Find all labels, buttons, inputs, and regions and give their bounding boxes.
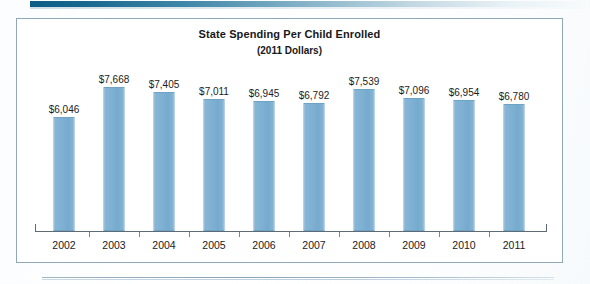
bar-group-2004: $7,405 [139, 63, 189, 231]
x-axis-line [35, 231, 546, 232]
bar-group-2008: $7,539 [339, 63, 389, 231]
bar-value-label: $6,792 [299, 90, 330, 101]
bar-value-label: $7,011 [199, 86, 229, 97]
x-axis-tick [189, 232, 190, 237]
bar-group-2009: $7,096 [389, 63, 439, 231]
page-divider-rule-shadow [42, 279, 554, 280]
bar-value-label: $7,539 [349, 76, 380, 87]
bar-value-label: $6,780 [499, 91, 530, 102]
chart-frame: State Spending Per Child Enrolled (2011 … [16, 18, 563, 263]
x-axis-label-2008: 2008 [339, 239, 389, 251]
bar [454, 100, 475, 231]
bar-group-2006: $6,945 [239, 63, 289, 231]
x-axis-tick [89, 232, 90, 237]
x-axis-right-endcap [546, 224, 547, 232]
bar [154, 92, 175, 231]
bar-value-label: $7,668 [99, 74, 130, 85]
bar-group-2007: $6,792 [289, 63, 339, 231]
bar [204, 99, 225, 231]
x-axis-tick [139, 232, 140, 237]
bar [304, 103, 325, 231]
chart-title: State Spending Per Child Enrolled [17, 27, 562, 42]
x-axis-tick [439, 232, 440, 237]
x-axis-left-endcap [35, 224, 36, 232]
chart-subtitle: (2011 Dollars) [17, 43, 562, 58]
bar-value-label: $6,046 [49, 104, 80, 115]
x-axis-label-2011: 2011 [489, 239, 539, 251]
x-axis-label-2004: 2004 [139, 239, 189, 251]
x-axis-label-2003: 2003 [89, 239, 139, 251]
bar [404, 98, 425, 231]
bar [354, 89, 375, 231]
x-axis-label-2009: 2009 [389, 239, 439, 251]
page-divider-rule [42, 277, 554, 278]
x-axis-labels: 2002200320042005200620072008200920102011 [37, 239, 544, 257]
x-axis-label-2005: 2005 [189, 239, 239, 251]
x-axis-label-2007: 2007 [289, 239, 339, 251]
chart-title-block: State Spending Per Child Enrolled (2011 … [17, 27, 562, 58]
bar [104, 87, 125, 231]
bar-value-label: $7,096 [399, 85, 430, 96]
bar-group-2005: $7,011 [189, 63, 239, 231]
x-axis-label-2010: 2010 [439, 239, 489, 251]
bar-group-2002: $6,046 [39, 63, 89, 231]
x-axis-label-2006: 2006 [239, 239, 289, 251]
bar [54, 117, 75, 231]
x-axis-tick [339, 232, 340, 237]
x-axis-tick [489, 232, 490, 237]
x-axis-label-2002: 2002 [39, 239, 89, 251]
bar-value-label: $6,954 [449, 87, 480, 98]
bar-group-2003: $7,668 [89, 63, 139, 231]
x-axis-tick [289, 232, 290, 237]
bar [504, 104, 525, 231]
bar-group-2011: $6,780 [489, 63, 539, 231]
bar-value-label: $7,405 [149, 79, 180, 90]
bar [254, 101, 275, 231]
bar-value-label: $6,945 [249, 88, 280, 99]
page-header-band-shadow [30, 7, 586, 9]
x-axis-tick [239, 232, 240, 237]
plot-area: $6,046$7,668$7,405$7,011$6,945$6,792$7,5… [37, 63, 544, 231]
bar-group-2010: $6,954 [439, 63, 489, 231]
x-axis-tick [389, 232, 390, 237]
